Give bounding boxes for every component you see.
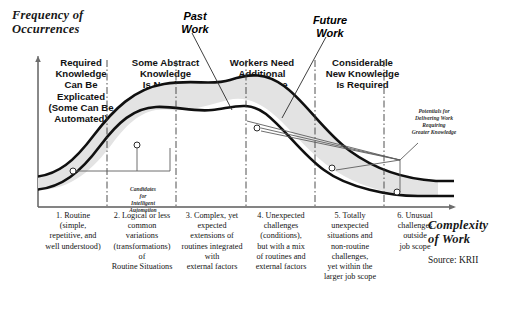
category-line: challenges, (315, 252, 385, 262)
x-axis-arrow (38, 204, 456, 210)
category-line: with (176, 252, 248, 262)
category-label-2: 2. Logical or less common variations (tr… (106, 211, 178, 272)
marker-point-5 (394, 189, 400, 195)
category-line: challenges (246, 221, 316, 231)
annotation-line: Delivering Work (388, 115, 480, 122)
x-axis-title-line-1: Complexity (428, 218, 512, 232)
marker-point-2 (134, 142, 140, 148)
category-line: variations (106, 231, 178, 241)
category-line: situations and (315, 231, 385, 241)
annotation-potentials-for-delivering-work: Potentials for Delivering Work Requiring… (388, 108, 480, 136)
category-line: external factors (246, 262, 316, 272)
category-line: Routine Situations (106, 262, 178, 272)
category-line: unexpected (315, 221, 385, 231)
category-line: 3. Complex, yet (176, 211, 248, 221)
category-line: routines integrated (176, 242, 248, 252)
category-line: repetitive, and (38, 231, 108, 241)
x-axis-title-line-2: of Work (428, 232, 512, 246)
marker-point-4 (329, 165, 335, 171)
category-line: yet within the (315, 262, 385, 272)
category-line: of (106, 252, 178, 262)
category-line: expected (176, 221, 248, 231)
category-line: (conditions), (246, 231, 316, 241)
figure-canvas: Frequency of Occurrences Past Work Futur… (0, 0, 512, 316)
annotation-candidates-for-intelligent-automation: Candidates for Intelligent Automation (110, 186, 176, 214)
category-line: larger job scope (315, 272, 385, 282)
category-line: common (106, 221, 178, 231)
source-credit: Source: KRII (428, 255, 512, 266)
annotation-line: Requiring (388, 122, 480, 129)
annotation-line: Intelligent (110, 200, 176, 207)
shaded-band-between-curves (38, 75, 438, 196)
x-axis-title: Complexity of Work (428, 218, 512, 246)
category-line: (simple, (38, 221, 108, 231)
annotation-line: Greater Knowledge (388, 129, 480, 136)
category-line: extensions of (176, 231, 248, 241)
category-line: but with a mix (246, 242, 316, 252)
category-line: well understood) (38, 242, 108, 252)
category-line: (transformations) (106, 242, 178, 252)
category-label-4: 4. Unexpected challenges (conditions), b… (246, 211, 316, 272)
annotation-line: Potentials for (388, 108, 480, 115)
annotation-line: for (110, 193, 176, 200)
annotation-line: Candidates (110, 186, 176, 193)
category-line: 1. Routine (38, 211, 108, 221)
category-line: non-routine (315, 242, 385, 252)
category-line: 5. Totally (315, 211, 385, 221)
marker-point-1 (70, 168, 76, 174)
category-line: external factors (176, 262, 248, 272)
category-label-1: 1. Routine (simple, repetitive, and well… (38, 211, 108, 252)
category-line: 4. Unexpected (246, 211, 316, 221)
marker-point-3 (254, 125, 260, 131)
category-line: of routines and (246, 252, 316, 262)
category-line: 2. Logical or less (106, 211, 178, 221)
category-label-5: 5. Totally unexpected situations and non… (315, 211, 385, 282)
category-label-3: 3. Complex, yet expected extensions of r… (176, 211, 248, 272)
